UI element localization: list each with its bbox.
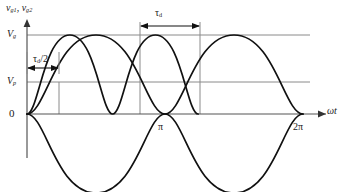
curve-vg1-full [27,35,303,114]
taudhalf-arrow-left-head [27,65,35,71]
vg-axis-tick-label: Vg [7,29,16,40]
two-pi-tick-label: 2π [293,122,303,132]
x-axis-label: ωt [327,106,337,116]
x-axis-arrowhead [318,111,326,118]
origin-label: 0 [9,108,15,119]
vp-axis-tick-label: Vp [7,76,16,87]
y-axis-label: vg1, vg2 [6,3,32,14]
waveform-figure: vg1, vg2 Vg Vp 0 π 2π ωt τd τd/2 [0,0,352,192]
curve-vg2-full [27,114,303,192]
taud-arrow-right-head [192,23,200,29]
y-axis-arrowhead [24,19,31,27]
pi-tick-label: π [158,122,163,132]
taud-arrow-left-head [140,23,148,29]
waveform-plot [0,0,352,192]
taud-half-annotation-label: τd/2 [33,54,48,65]
taud-annotation-label: τd [155,8,162,19]
